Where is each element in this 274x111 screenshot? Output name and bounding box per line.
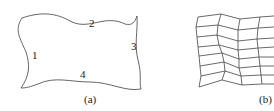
mesh — [196, 14, 274, 87]
edge-label-1: 1 — [32, 50, 38, 61]
caption-b: (b) — [259, 94, 272, 105]
figure: 2 1 3 4 (a) (b) — [0, 0, 274, 111]
edge-label-3: 3 — [131, 41, 137, 52]
figure-drawing — [0, 0, 274, 111]
caption-a: (a) — [84, 94, 96, 105]
edge-label-2: 2 — [89, 18, 95, 29]
edge-label-4: 4 — [80, 69, 86, 80]
